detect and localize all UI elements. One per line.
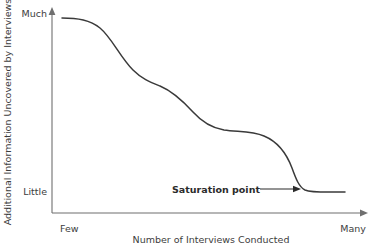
x-axis: [52, 210, 368, 217]
chart-container: Much Little Few Many Number of Interview…: [0, 0, 379, 246]
saturation-curve: [62, 18, 345, 192]
y-axis: [49, 7, 56, 213]
x-tick-label-many: Many: [340, 223, 366, 234]
saturation-point-label: Saturation point: [172, 184, 260, 195]
saturation-point-annotation: Saturation point: [172, 184, 301, 195]
y-tick-label-much: Much: [22, 8, 47, 19]
y-axis-arrowhead-icon: [49, 7, 56, 15]
interview-saturation-chart: Much Little Few Many Number of Interview…: [0, 0, 379, 246]
y-axis-title: Additional Information Uncovered by Inte…: [2, 0, 13, 225]
x-axis-arrowhead-icon: [360, 210, 368, 217]
saturation-point-arrowhead-icon: [293, 186, 301, 192]
x-tick-label-few: Few: [60, 223, 79, 234]
y-tick-label-little: Little: [23, 186, 47, 197]
x-axis-title: Number of Interviews Conducted: [133, 234, 290, 245]
